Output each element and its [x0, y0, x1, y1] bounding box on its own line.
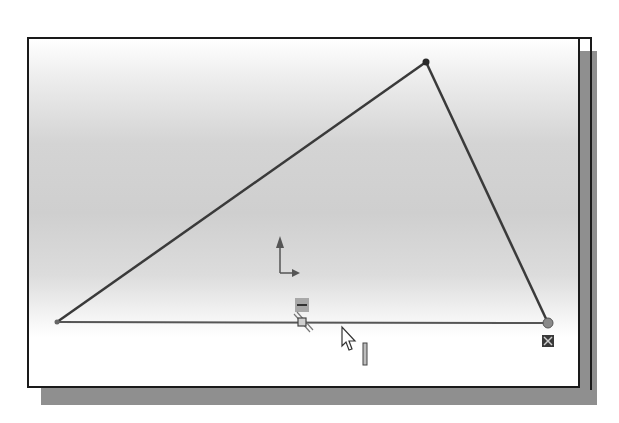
- top-vertex[interactable]: [423, 59, 430, 66]
- right-vertex[interactable]: [543, 318, 553, 328]
- mouse-cursor-icon: [342, 327, 355, 350]
- horizontal-relation-icon: [295, 298, 309, 312]
- right-edge[interactable]: [426, 62, 548, 323]
- left-edge[interactable]: [57, 62, 426, 322]
- coincident-relation-icon: [542, 335, 554, 347]
- vertical-inference-icon: [363, 343, 367, 365]
- sketch-canvas[interactable]: [0, 0, 619, 423]
- origin-axes-icon: [276, 236, 300, 277]
- left-vertex[interactable]: [55, 320, 60, 325]
